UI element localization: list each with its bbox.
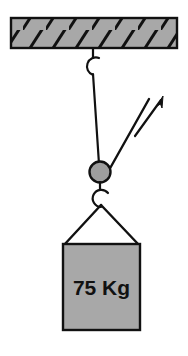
ceiling-hook-curve [87,57,99,75]
load-block-label: 75 Kg [73,276,130,299]
ceiling-beam [11,18,177,48]
sling-rope-left [64,205,101,245]
load-hook-icon [93,182,108,207]
load-block: 75 Kg [63,244,140,330]
diagonal-rope [104,99,149,179]
sling-rope-right [101,205,139,245]
pulley-diagram-figure: 75 Kg [0,0,188,356]
diagram-canvas: 75 Kg [0,0,188,356]
vertical-rope [93,74,99,164]
ceiling-hatch-lines [11,18,177,48]
ceiling-hook-icon [87,48,99,75]
pulley-wheel [90,162,111,183]
sling-ropes [64,205,139,245]
force-arrow-head [157,96,163,108]
